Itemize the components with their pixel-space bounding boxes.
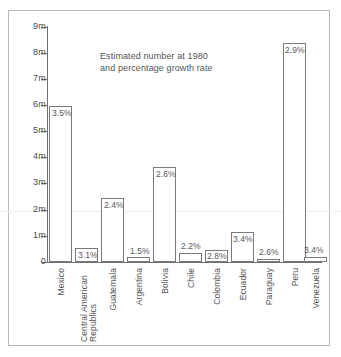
bar-mexico[interactable] xyxy=(49,106,72,262)
bar-label-chile: 2.2% xyxy=(181,242,201,251)
bar-label-paraguay: 2.6% xyxy=(259,248,279,257)
y-tick-label-8m: 8m xyxy=(33,48,46,57)
bar-peru[interactable] xyxy=(283,43,306,262)
y-tick-label-9m: 9m xyxy=(33,22,46,31)
category-label-central-american-republics: Central American Republics xyxy=(80,268,98,342)
category-label-peru: Peru xyxy=(291,268,300,286)
bar-label-ecuador: 3.4% xyxy=(233,235,253,244)
category-label-chile: Chile xyxy=(187,268,196,288)
y-tick-label-1m: 1m xyxy=(33,231,46,240)
category-label-colombia: Colombia xyxy=(213,268,222,305)
bar-bolivia[interactable] xyxy=(153,167,176,262)
y-tick-label-5m: 5m xyxy=(33,126,46,135)
y-tick-label-7m: 7m xyxy=(33,74,46,83)
annotation-line-1: Estimated number at 1980 xyxy=(100,50,213,62)
bar-argentina[interactable] xyxy=(127,257,150,262)
y-tick-label-0: 0 xyxy=(41,257,46,266)
y-tick-label-6m: 6m xyxy=(33,100,46,109)
bar-venezuela[interactable] xyxy=(304,257,327,262)
category-label-guatemala: Guatemala xyxy=(109,268,118,310)
bar-label-mexico: 3.5% xyxy=(52,109,72,118)
plot-area: 9m 8m 7m 6m 5m 4m 3m 2m 1m 0 Estimated n… xyxy=(0,0,341,357)
bar-label-colombia: 2.8% xyxy=(207,252,227,261)
bar-label-central-american-republics: 3.1% xyxy=(78,251,98,260)
y-axis-line xyxy=(47,26,48,263)
bar-paraguay[interactable] xyxy=(257,259,280,262)
y-tick-label-2m: 2m xyxy=(33,205,46,214)
bar-label-venezuela: 3.4% xyxy=(304,246,324,255)
bar-label-argentina: 1.5% xyxy=(130,247,150,256)
chart-annotation: Estimated number at 1980 and percentage … xyxy=(100,50,213,74)
bar-label-guatemala: 2.4% xyxy=(104,201,124,210)
category-label-argentina: Argentina xyxy=(135,268,144,305)
category-label-ecuador: Ecuador xyxy=(239,268,248,300)
annotation-line-2: and percentage growth rate xyxy=(100,62,213,74)
category-label-venezuela: Venezuela xyxy=(312,268,321,309)
y-tick-label-3m: 3m xyxy=(33,178,46,187)
bar-label-bolivia: 2.6% xyxy=(156,170,176,179)
category-label-mexico: Mexico xyxy=(57,268,66,296)
x-axis-baseline xyxy=(47,262,322,263)
category-label-paraguay: Paraguay xyxy=(265,268,274,305)
bar-label-peru: 2.9% xyxy=(285,46,305,55)
y-tick-label-4m: 4m xyxy=(33,152,46,161)
chart-figure: 9m 8m 7m 6m 5m 4m 3m 2m 1m 0 Estimated n… xyxy=(0,0,341,357)
bar-chile[interactable] xyxy=(179,253,202,262)
category-label-bolivia: Bolivia xyxy=(161,268,170,294)
